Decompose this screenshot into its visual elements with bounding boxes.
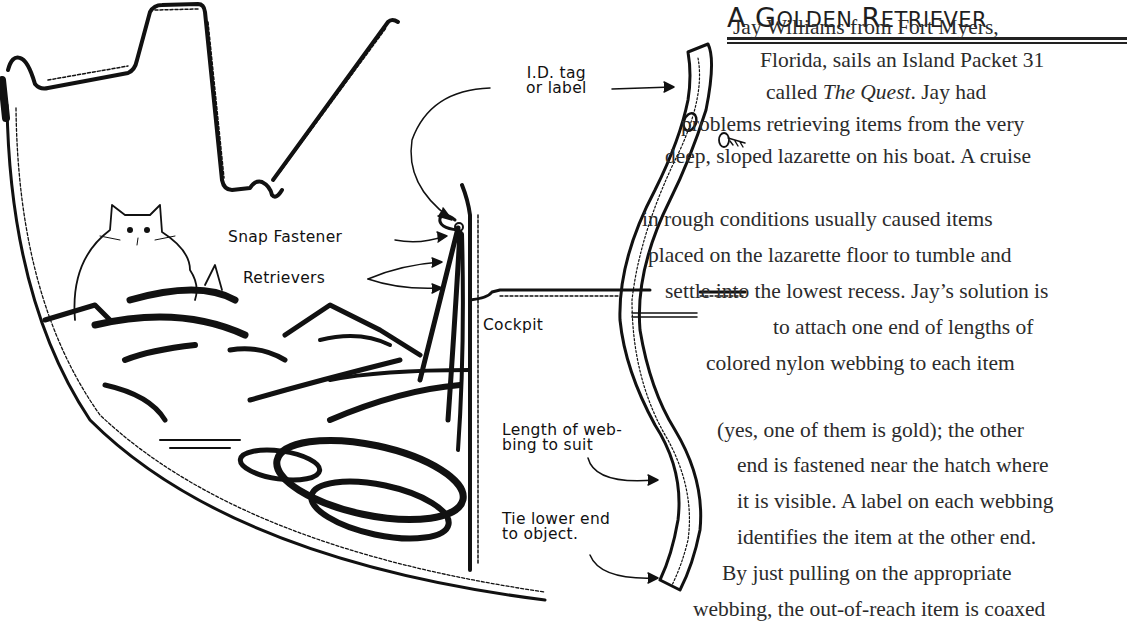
- body-line: identifies the item at the other end.: [737, 524, 1036, 550]
- body-line: By just pulling on the appropriate: [722, 560, 1012, 586]
- id-tag-arrow: [411, 88, 490, 218]
- callout-cockpit: Cockpit: [483, 318, 543, 333]
- cockpit-floor: [470, 290, 650, 300]
- title-rule-bottom: [727, 42, 1127, 44]
- callout-retrievers: Retrievers: [243, 271, 325, 286]
- callout-id-tag: I.D. tag or label: [526, 66, 587, 96]
- body-line: settle into the lowest recess. Jay’s sol…: [665, 278, 1048, 304]
- body-line: end is fastened near the hatch where: [737, 452, 1049, 478]
- boat-name: The Quest: [823, 80, 911, 104]
- retrievers-arrow: [368, 262, 440, 279]
- callout-snap-fastener: Snap Fastener: [228, 230, 342, 245]
- hatch-coaming: [8, 4, 282, 197]
- callout-length: Length of web- bing to suit: [502, 423, 622, 453]
- body-line: problems retrieving items from the very: [681, 111, 1024, 137]
- body-line: Jay Williams from Fort Myers,: [733, 14, 999, 40]
- body-line: in rough conditions usually caused items: [642, 206, 993, 232]
- body-line: called The Quest. Jay had: [766, 79, 986, 105]
- body-line: deep, sloped lazarette on his boat. A cr…: [665, 143, 1031, 169]
- body-line: placed on the lazarette floor to tumble …: [648, 242, 1012, 268]
- callout-tie: Tie lower end to object.: [502, 512, 610, 542]
- body-line: webbing, the out-of-reach item is coaxed: [693, 596, 1045, 622]
- body-line: Florida, sails an Island Packet 31: [760, 47, 1044, 73]
- body-line: (yes, one of them is gold); the other: [717, 417, 1024, 443]
- stored-items: [45, 305, 110, 320]
- body-line: to attach one end of lengths of: [773, 314, 1033, 340]
- body-line: colored nylon webbing to each item: [706, 350, 1015, 376]
- tie-arrow: [590, 555, 655, 578]
- cat: [74, 205, 196, 320]
- body-line: it is visible. A label on each webbing: [737, 488, 1053, 514]
- length-arrow: [588, 458, 655, 481]
